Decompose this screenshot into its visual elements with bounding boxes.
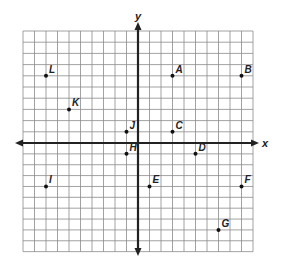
y-axis-label: y — [134, 10, 142, 22]
point-c-marker — [171, 130, 175, 134]
point-d-label: D — [199, 142, 206, 153]
point-k-label: K — [72, 97, 80, 108]
point-j-label: J — [130, 120, 136, 131]
points: ABCDEFGHIJKL — [44, 64, 252, 232]
point-h-marker — [125, 152, 129, 156]
point-g-marker — [217, 228, 221, 232]
point-k-marker — [67, 107, 71, 111]
y-axis-up-arrow-icon — [135, 22, 142, 30]
point-f-marker — [240, 184, 244, 188]
point-b-label: B — [245, 64, 252, 75]
x-axis-left-arrow-icon — [15, 140, 23, 147]
point-i-marker — [44, 184, 48, 188]
point-f-label: F — [245, 174, 252, 185]
coordinate-plane: x y ABCDEFGHIJKL — [0, 0, 284, 266]
point-b-marker — [240, 74, 244, 78]
point-c-label: C — [176, 120, 184, 131]
point-l-marker — [44, 74, 48, 78]
x-axis-right-arrow-icon — [251, 140, 259, 147]
point-a-label: A — [175, 64, 183, 75]
point-d-marker — [194, 152, 198, 156]
point-i-label: I — [49, 174, 52, 185]
point-h-label: H — [130, 142, 138, 153]
point-a-marker — [171, 74, 175, 78]
x-axis-label: x — [261, 137, 269, 149]
point-e-marker — [148, 184, 152, 188]
point-g-label: G — [222, 218, 230, 229]
point-j-marker — [125, 130, 129, 134]
point-l-label: L — [49, 64, 55, 75]
point-e-label: E — [153, 174, 160, 185]
